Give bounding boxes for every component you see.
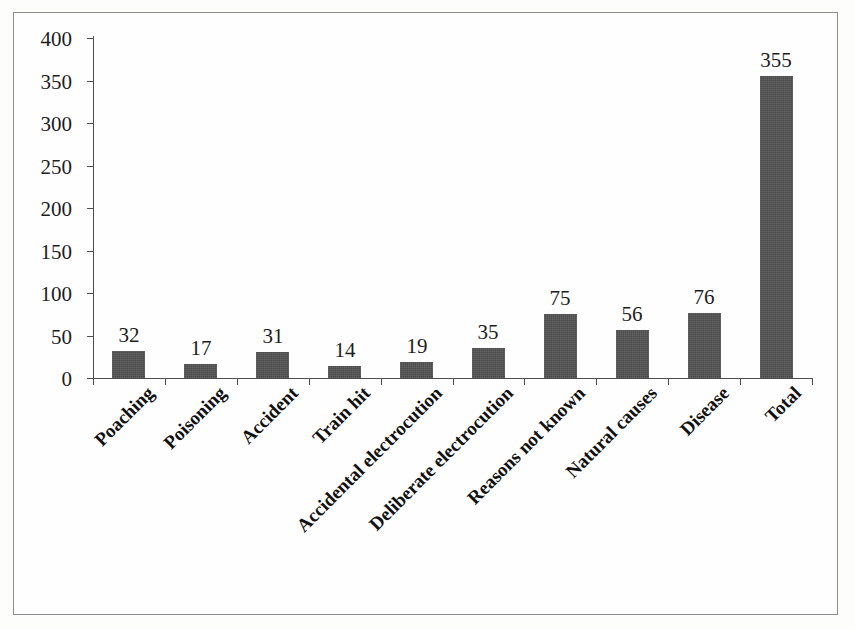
x-axis-tick-mark bbox=[237, 378, 238, 385]
y-axis-tick-label-text: 350 bbox=[41, 70, 73, 95]
bar bbox=[472, 348, 505, 378]
y-axis-tick-label-text: 150 bbox=[41, 240, 73, 265]
y-axis-tick-label-text: 200 bbox=[41, 197, 73, 222]
y-axis-tick-label-text: 0 bbox=[62, 367, 73, 392]
bar-value-label: 56 bbox=[592, 304, 672, 325]
x-axis-tick-mark bbox=[453, 378, 454, 385]
bar bbox=[112, 351, 145, 378]
y-axis-tick-mark bbox=[87, 251, 93, 252]
bar-chart-plot-area: 050100150200250300350400 321731141935755… bbox=[0, 0, 855, 629]
bar-value-label: 35 bbox=[448, 322, 528, 343]
bar bbox=[760, 76, 793, 378]
bar bbox=[688, 313, 721, 378]
bar-value-label: 32 bbox=[89, 325, 169, 346]
y-axis-tick-label-text: 100 bbox=[41, 282, 73, 307]
x-axis-tick-mark bbox=[596, 378, 597, 385]
y-axis-tick-label-text: 50 bbox=[51, 325, 72, 350]
bar bbox=[544, 314, 577, 378]
x-axis-tick-mark bbox=[740, 378, 741, 385]
bar bbox=[400, 362, 433, 378]
bar-value-label: 17 bbox=[161, 338, 241, 359]
y-axis-tick-mark bbox=[87, 208, 93, 209]
bar bbox=[616, 330, 649, 378]
x-axis-category-label: Train hit bbox=[308, 382, 374, 448]
bar-value-label: 355 bbox=[736, 50, 816, 71]
bar bbox=[328, 366, 361, 378]
x-axis-tick-mark bbox=[165, 378, 166, 385]
x-axis-tick-mark bbox=[93, 378, 94, 385]
y-axis-tick-mark bbox=[87, 38, 93, 39]
bar-value-label: 14 bbox=[305, 340, 385, 361]
y-axis-tick-mark bbox=[87, 123, 93, 124]
bar-value-label: 75 bbox=[520, 288, 600, 309]
x-axis-category-label: Poaching bbox=[90, 382, 159, 451]
bar-value-label: 76 bbox=[664, 287, 744, 308]
x-axis-category-label: Total bbox=[761, 382, 806, 427]
chart-screenshot: 050100150200250300350400 321731141935755… bbox=[0, 0, 855, 629]
x-axis-tick-mark bbox=[381, 378, 382, 385]
bar bbox=[256, 352, 289, 378]
y-axis-tick-label: 100 bbox=[20, 293, 82, 294]
y-axis-tick-mark bbox=[87, 166, 93, 167]
x-axis-tick-mark bbox=[524, 378, 525, 385]
x-axis-tick-mark bbox=[812, 378, 813, 385]
x-axis-tick-mark bbox=[309, 378, 310, 385]
x-axis-tick-mark bbox=[668, 378, 669, 385]
y-axis-tick-mark bbox=[87, 293, 93, 294]
y-axis-tick-label-text: 400 bbox=[41, 27, 73, 52]
y-axis-tick-label-text: 300 bbox=[41, 112, 73, 137]
y-axis-tick-label: 300 bbox=[20, 123, 82, 124]
y-axis-tick-label: 50 bbox=[20, 336, 82, 337]
y-axis-tick-mark bbox=[87, 81, 93, 82]
x-axis-category-label: Disease bbox=[676, 382, 734, 440]
y-axis-tick-label: 150 bbox=[20, 251, 82, 252]
y-axis-tick-label: 0 bbox=[20, 378, 82, 379]
bar bbox=[184, 364, 217, 378]
bar-value-label: 19 bbox=[377, 336, 457, 357]
x-axis-category-label: Poisoning bbox=[159, 382, 231, 454]
y-axis-tick-label: 400 bbox=[20, 38, 82, 39]
y-axis-tick-label-text: 250 bbox=[41, 155, 73, 180]
x-axis-category-label: Deliberate electrocution bbox=[365, 382, 518, 535]
y-axis-tick-label: 250 bbox=[20, 166, 82, 167]
y-axis-tick-label: 200 bbox=[20, 208, 82, 209]
x-axis-category-label: Accident bbox=[236, 382, 302, 448]
y-axis-tick-label: 350 bbox=[20, 81, 82, 82]
bar-value-label: 31 bbox=[233, 326, 313, 347]
